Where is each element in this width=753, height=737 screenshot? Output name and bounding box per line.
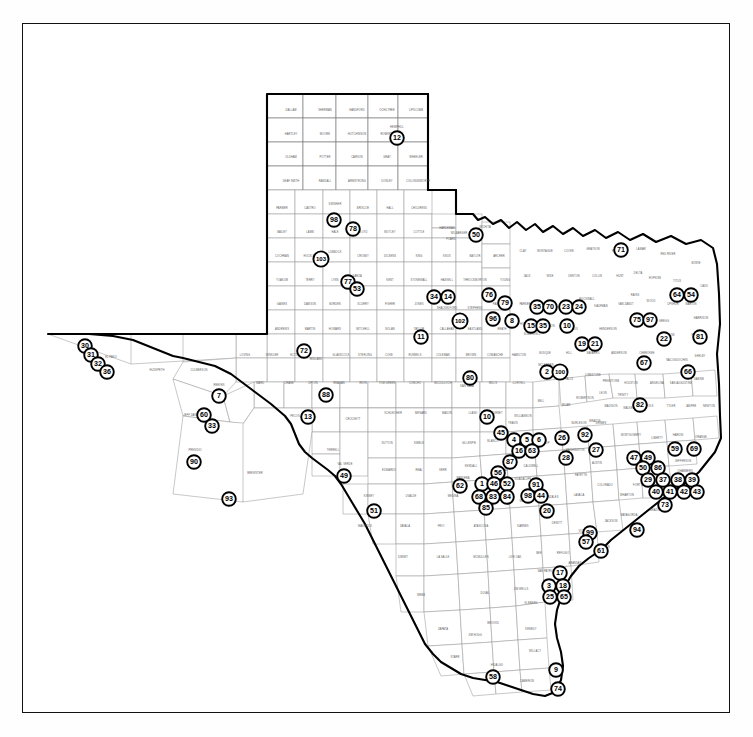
site-marker[interactable]: 49 <box>337 469 351 483</box>
site-marker[interactable]: 82 <box>633 398 647 412</box>
site-marker[interactable]: 9 <box>549 663 563 677</box>
site-marker[interactable]: 52 <box>500 477 514 491</box>
county-label: WILLACY <box>529 649 541 653</box>
site-marker[interactable]: 42 <box>677 485 691 499</box>
marker-number: 1 <box>480 480 484 488</box>
site-marker[interactable]: 54 <box>684 288 698 302</box>
site-marker[interactable]: 58 <box>486 670 500 684</box>
site-marker[interactable]: 13 <box>301 410 315 424</box>
site-marker[interactable]: 85 <box>479 501 493 515</box>
site-marker[interactable]: 93 <box>222 492 236 506</box>
site-marker[interactable]: 69 <box>687 442 701 456</box>
site-marker[interactable]: 75 <box>630 313 644 327</box>
marker-number: 10 <box>483 413 491 421</box>
site-marker[interactable]: 72 <box>297 344 311 358</box>
site-marker[interactable]: 59 <box>668 442 682 456</box>
site-marker[interactable]: 87 <box>503 455 517 469</box>
site-marker[interactable]: 40 <box>649 485 663 499</box>
marker-number: 61 <box>597 547 605 555</box>
site-marker[interactable]: 73 <box>658 498 672 512</box>
county-label: THROCKMORTON <box>463 278 487 282</box>
site-marker[interactable]: 97 <box>643 313 657 327</box>
site-marker[interactable]: 23 <box>559 300 573 314</box>
site-marker[interactable]: 36 <box>100 365 114 379</box>
site-marker[interactable]: 24 <box>572 300 586 314</box>
marker-number: 22 <box>660 335 668 343</box>
site-marker[interactable]: 21 <box>588 337 602 351</box>
site-marker[interactable]: 7 <box>212 389 226 403</box>
site-marker[interactable]: 76 <box>482 288 496 302</box>
site-marker[interactable]: 35 <box>530 300 544 314</box>
marker-number: 50 <box>639 464 647 472</box>
county-label: ZAPATA <box>438 627 448 631</box>
site-marker[interactable]: 61 <box>594 544 608 558</box>
site-marker[interactable]: 98 <box>521 489 535 503</box>
marker-number: 98 <box>524 492 532 500</box>
county-label: LIPSCOMB <box>409 108 423 112</box>
county-label: MATAGORDA <box>620 513 637 517</box>
site-marker[interactable]: 29 <box>641 473 655 487</box>
site-marker[interactable]: 20 <box>540 504 554 518</box>
site-marker[interactable]: 28 <box>559 451 573 465</box>
county-label: STERLING <box>358 353 372 357</box>
site-marker[interactable]: 19 <box>575 337 589 351</box>
county-label: WISE <box>546 274 553 278</box>
site-marker[interactable]: 94 <box>630 523 644 537</box>
site-marker[interactable]: 27 <box>589 443 603 457</box>
site-marker[interactable]: 14 <box>441 290 455 304</box>
marker-number: 6 <box>537 436 541 444</box>
marker-number: 23 <box>562 303 570 311</box>
site-marker[interactable]: 103 <box>313 251 328 266</box>
site-marker[interactable]: 67 <box>637 356 651 370</box>
site-marker[interactable]: 57 <box>579 535 593 549</box>
site-marker[interactable]: 74 <box>551 682 565 696</box>
site-marker[interactable]: 70 <box>543 300 557 314</box>
county-label: SHELBY <box>695 354 706 358</box>
site-marker[interactable]: 62 <box>453 479 467 493</box>
site-marker[interactable]: 34 <box>427 290 441 304</box>
site-marker[interactable]: 43 <box>690 485 704 499</box>
site-marker[interactable]: 88 <box>319 388 333 402</box>
site-marker[interactable]: 102 <box>452 313 467 328</box>
marker-number: 78 <box>349 225 357 233</box>
site-marker[interactable]: 79 <box>498 296 512 310</box>
site-marker[interactable]: 35 <box>536 319 550 333</box>
site-marker[interactable]: 41 <box>663 485 677 499</box>
site-marker[interactable]: 44 <box>534 489 548 503</box>
site-marker[interactable]: 25 <box>543 590 557 604</box>
site-marker[interactable]: 26 <box>555 431 569 445</box>
marker-number: 69 <box>690 445 698 453</box>
county-label: HEMPHILL <box>390 125 404 129</box>
county-label: IRION <box>359 381 367 385</box>
site-marker[interactable]: 98 <box>327 213 341 227</box>
site-marker[interactable]: 17 <box>553 566 567 580</box>
county-label: PARMER <box>276 206 288 210</box>
site-marker[interactable]: 65 <box>557 590 571 604</box>
site-marker[interactable]: 51 <box>367 504 381 518</box>
site-marker[interactable]: 64 <box>670 288 684 302</box>
site-marker[interactable]: 78 <box>346 222 360 236</box>
site-marker[interactable]: 80 <box>463 371 477 385</box>
site-marker[interactable]: 33 <box>205 419 219 433</box>
site-marker[interactable]: 53 <box>350 282 364 296</box>
site-marker[interactable]: 100 <box>552 364 567 379</box>
county-label: HAMILTON <box>512 353 526 357</box>
site-marker[interactable]: 10 <box>480 410 494 424</box>
site-marker[interactable]: 45 <box>494 426 508 440</box>
site-marker[interactable]: 46 <box>487 477 501 491</box>
site-marker[interactable]: 63 <box>525 444 539 458</box>
site-marker[interactable]: 66 <box>681 365 695 379</box>
site-marker[interactable]: 71 <box>614 243 628 257</box>
county-label: MILAM <box>562 403 571 407</box>
site-marker[interactable]: 12 <box>390 131 404 145</box>
site-marker[interactable]: 8 <box>505 314 519 328</box>
site-marker[interactable]: 22 <box>657 332 671 346</box>
site-marker[interactable]: 50 <box>469 228 483 242</box>
site-marker[interactable]: 81 <box>693 330 707 344</box>
site-marker[interactable]: 11 <box>414 330 428 344</box>
site-marker[interactable]: 10 <box>560 319 574 333</box>
site-marker[interactable]: 92 <box>578 428 592 442</box>
site-marker[interactable]: 84 <box>500 490 514 504</box>
site-marker[interactable]: 96 <box>486 312 500 326</box>
site-marker[interactable]: 90 <box>187 455 201 469</box>
